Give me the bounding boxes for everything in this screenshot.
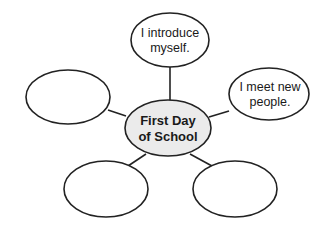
node-bottom-right (193, 161, 277, 217)
web-diagram: I introduce myself. I meet new people. F… (0, 0, 332, 228)
node-right-line2: people. (249, 95, 290, 109)
node-center: First Day of School (125, 100, 211, 156)
node-left (26, 70, 110, 124)
diagram-svg: I introduce myself. I meet new people. F… (0, 0, 332, 228)
center-line1: First Day (140, 113, 196, 128)
node-right-line1: I meet new (239, 80, 301, 94)
connector-right (209, 111, 229, 117)
node-top: I introduce myself. (131, 13, 209, 67)
connector-bottom-left (128, 154, 146, 166)
connector-left (108, 110, 126, 116)
node-bottom-left (64, 161, 148, 217)
center-line2: of School (138, 129, 197, 144)
connector-bottom-right (190, 154, 212, 166)
node-right: I meet new people. (229, 68, 309, 120)
node-top-line2: myself. (150, 41, 190, 55)
node-top-line1: I introduce (141, 26, 199, 40)
